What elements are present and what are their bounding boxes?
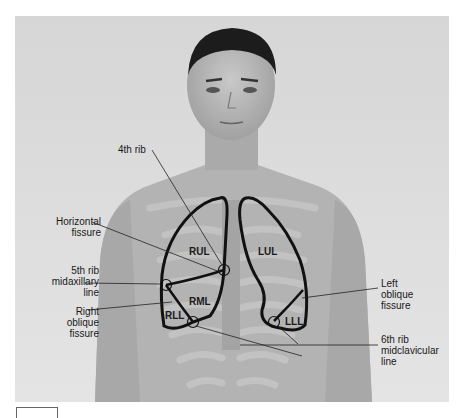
label-line: 6th rib [381, 334, 439, 345]
label-right-oblique-fissure: Right oblique fissure [35, 306, 99, 339]
label-line: fissure [35, 227, 101, 238]
label-line: line [35, 287, 99, 298]
label-horizontal-fissure: Horizontal fissure [35, 216, 101, 238]
label-line: Left [381, 278, 413, 289]
label-line: fissure [381, 300, 413, 311]
label-4th-rib: 4th rib [118, 144, 146, 155]
label-line: Right [35, 306, 99, 317]
lobe-rml: RML [189, 296, 211, 307]
label-5th-rib-midaxillary: 5th rib midaxillary line [35, 265, 99, 298]
label-line: 5th rib [35, 265, 99, 276]
label-line: Horizontal [35, 216, 101, 227]
label-line: fissure [35, 328, 99, 339]
label-left-oblique-fissure: Left oblique fissure [381, 278, 413, 311]
chest-figure: 4th rib Horizontal fissure 5th rib midax… [15, 16, 449, 402]
lobe-lll: LLL [285, 316, 303, 327]
label-line: oblique [35, 317, 99, 328]
lobe-rul: RUL [189, 246, 210, 257]
lobe-rll: RLL [165, 310, 184, 321]
figure-number-box [16, 407, 58, 418]
label-line: midaxillary [35, 276, 99, 287]
label-line: line [381, 356, 439, 367]
label-line: midclavicular [381, 345, 439, 356]
lobe-lul: LUL [258, 246, 277, 257]
label-6th-rib-midclavicular: 6th rib midclavicular line [381, 334, 439, 367]
label-line: oblique [381, 289, 413, 300]
